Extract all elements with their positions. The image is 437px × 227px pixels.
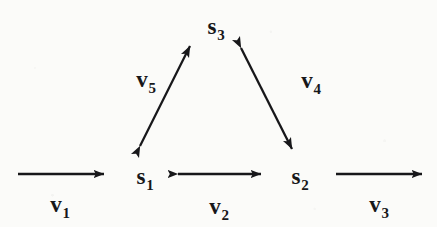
diagram-canvas: s1 s2 s3 v1 v2 v3 v4 v5: [0, 0, 437, 227]
edge-label-v4: v4: [301, 69, 320, 92]
edge-label-v5: v5: [136, 68, 155, 91]
edge-v3-base: v: [369, 192, 381, 217]
edge-v1-subscript: 1: [63, 205, 71, 221]
edge-label-v3: v3: [369, 193, 388, 216]
node-label-s1: s1: [137, 165, 154, 188]
node-s3-base: s: [208, 14, 217, 39]
node-s1-base: s: [137, 164, 146, 189]
node-label-s3: s3: [208, 15, 225, 38]
edge-v1-base: v: [50, 192, 62, 217]
edge-label-v1: v1: [50, 193, 69, 216]
node-s1-subscript: 1: [146, 177, 154, 193]
edge-v2-base: v: [209, 194, 221, 219]
node-s3-subscript: 3: [217, 27, 225, 43]
node-s2-base: s: [292, 164, 301, 189]
edge-v5-base: v: [136, 67, 148, 92]
edge-v5-subscript: 5: [149, 80, 157, 96]
edge-v2-subscript: 2: [222, 207, 230, 223]
edge-label-v2: v2: [209, 195, 228, 218]
edge-v4-subscript: 4: [314, 81, 322, 97]
arrow-v5: [140, 46, 190, 146]
node-label-s2: s2: [292, 165, 309, 188]
edge-v3-subscript: 3: [382, 205, 390, 221]
arrow-v4: [241, 48, 292, 149]
edge-v4-base: v: [301, 68, 313, 93]
node-s2-subscript: 2: [301, 177, 309, 193]
